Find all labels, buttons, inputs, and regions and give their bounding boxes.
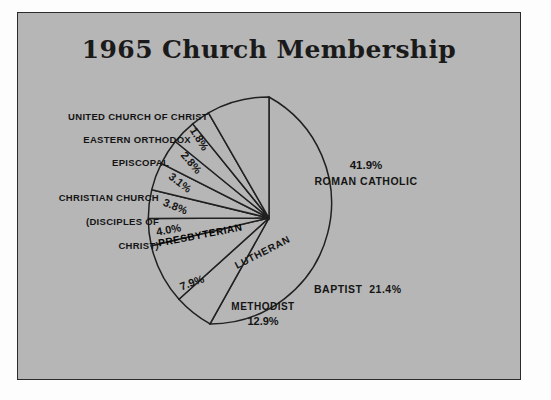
label-roman-catholic-group: 41.9% ROMAN CATHOLIC bbox=[296, 159, 436, 187]
label-methodist: METHODIST bbox=[208, 301, 318, 312]
label-christian-church-line1: CHRISTIAN CHURCH bbox=[59, 192, 159, 203]
label-christian-church-line3: CHRIST) bbox=[118, 240, 159, 251]
value-methodist: 12.9% bbox=[208, 315, 318, 327]
label-christian-church-line2: (DISCIPLES OF bbox=[86, 216, 159, 227]
label-eastern-orthodox: EASTERN ORTHODOX bbox=[36, 134, 191, 146]
label-baptist: BAPTIST 21.4% bbox=[314, 283, 402, 295]
value-roman-catholic: 41.9% bbox=[296, 159, 436, 171]
label-christian-church: CHRISTIAN CHURCH (DISCIPLES OF CHRIST) bbox=[28, 180, 159, 264]
label-methodist-group: METHODIST 12.9% bbox=[208, 301, 318, 327]
label-episcopal: EPISCOPAL bbox=[36, 157, 169, 169]
label-roman-catholic: ROMAN CATHOLIC bbox=[296, 175, 436, 187]
chart-panel: 1965 Church Membership UNITED CH bbox=[17, 12, 521, 380]
label-united-church-of-christ: UNITED CHURCH OF CHRIST bbox=[36, 111, 208, 123]
chart-screenshot: 1965 Church Membership UNITED CH bbox=[0, 0, 551, 400]
